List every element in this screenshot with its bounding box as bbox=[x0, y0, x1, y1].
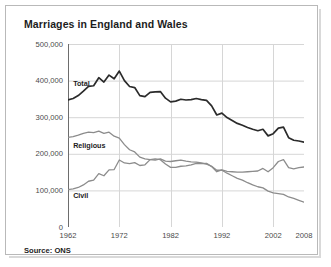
chart-card: Marriages in England and Wales Source: O… bbox=[5, 5, 318, 255]
chart-svg bbox=[68, 44, 304, 227]
chart-title: Marriages in England and Wales bbox=[24, 18, 188, 30]
y-axis-tick-label: 200,000 bbox=[17, 149, 63, 158]
y-axis-tick-label: 500,000 bbox=[17, 40, 63, 49]
x-axis-tick-label: 1972 bbox=[99, 231, 139, 240]
x-axis-tick-label: 1982 bbox=[151, 231, 191, 240]
source-note: Source: ONS bbox=[24, 246, 71, 255]
series-label-total: Total bbox=[73, 79, 90, 88]
x-axis-tick-label: 2008 bbox=[284, 231, 324, 240]
card-shadow-bottom bbox=[9, 256, 321, 258]
y-axis-tick-label: 100,000 bbox=[17, 186, 63, 195]
plot-area bbox=[68, 44, 304, 227]
card-shadow-right bbox=[319, 9, 321, 258]
y-axis-tick-label: 400,000 bbox=[17, 76, 63, 85]
series-line-civil bbox=[68, 159, 304, 190]
x-axis-tick-label: 1992 bbox=[202, 231, 242, 240]
y-axis-tick-label: 300,000 bbox=[17, 113, 63, 122]
series-label-religious: Religious bbox=[73, 141, 105, 150]
x-axis-tick-label: 1962 bbox=[48, 231, 88, 240]
series-label-civil: Civil bbox=[73, 191, 88, 200]
series-line-total bbox=[68, 71, 304, 142]
